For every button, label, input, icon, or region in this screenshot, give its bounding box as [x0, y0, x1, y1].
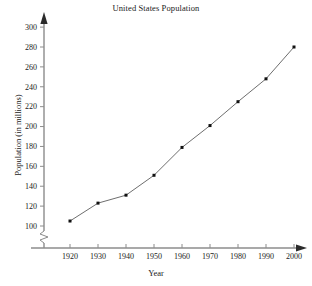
y-tick-label: 100	[25, 222, 37, 231]
data-point-marker	[181, 146, 184, 149]
y-tick-label: 120	[25, 202, 37, 211]
data-point-marker	[69, 220, 72, 223]
y-tick-label: 200	[25, 122, 37, 131]
y-tick-label: 240	[25, 83, 37, 92]
y-tick-label: 300	[25, 23, 37, 32]
y-tick-label: 220	[25, 102, 37, 111]
data-point-marker	[265, 77, 268, 80]
data-point-marker	[153, 174, 156, 177]
y-tick-label: 160	[25, 162, 37, 171]
y-axis-label: Population (in millions)	[13, 70, 23, 200]
x-tick-label: 1940	[118, 252, 134, 261]
y-tick-label: 260	[25, 63, 37, 72]
x-tick-label: 1960	[174, 252, 190, 261]
data-point-marker	[97, 202, 100, 205]
chart-plot-area: 1001201401601802002202402602803001920193…	[0, 0, 312, 286]
data-point-marker	[209, 124, 212, 127]
x-tick-label: 1920	[62, 252, 78, 261]
y-tick-label: 280	[25, 43, 37, 52]
x-tick-label: 1970	[202, 252, 218, 261]
data-point-marker	[293, 46, 296, 49]
y-tick-label: 180	[25, 142, 37, 151]
x-axis-label: Year	[0, 268, 312, 278]
x-tick-label: 2000	[286, 252, 302, 261]
x-tick-label: 1930	[90, 252, 106, 261]
data-point-marker	[125, 194, 128, 197]
data-point-marker	[237, 100, 240, 103]
x-tick-label: 1990	[258, 252, 274, 261]
y-tick-label: 140	[25, 182, 37, 191]
y-axis-break-icon	[40, 231, 48, 243]
x-tick-label: 1950	[146, 252, 162, 261]
y-axis-arrow-icon	[40, 12, 47, 24]
x-tick-label: 1980	[230, 252, 246, 261]
data-series-line	[70, 47, 294, 221]
x-axis-arrow-icon	[296, 244, 307, 251]
chart-container: United States Population 100120140160180…	[0, 0, 312, 286]
